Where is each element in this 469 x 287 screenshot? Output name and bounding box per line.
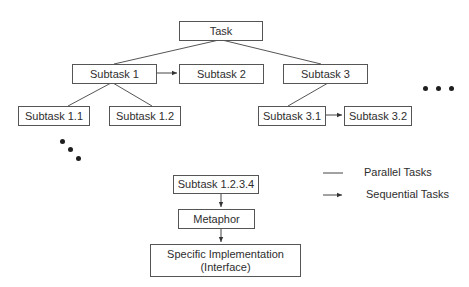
subtask-1-label: Subtask 1 xyxy=(90,68,139,81)
subtask-3-2-node: Subtask 3.2 xyxy=(344,106,412,126)
subtask-2-node: Subtask 2 xyxy=(179,64,264,84)
specific-implementation-node: Specific Implementation (Interface) xyxy=(150,244,301,277)
task-label: Task xyxy=(210,25,233,38)
task-node: Task xyxy=(179,21,263,41)
subtask-3-1-node: Subtask 3.1 xyxy=(258,106,326,126)
metaphor-label: Metaphor xyxy=(193,213,239,226)
subtask-1-1-node: Subtask 1.1 xyxy=(18,106,90,126)
subtask-3-node: Subtask 3 xyxy=(283,64,368,84)
interface-label: (Interface) xyxy=(200,261,250,274)
subtask-1-2-node: Subtask 1.2 xyxy=(109,106,181,126)
subtask-1-2-3-4-label: Subtask 1.2.3.4 xyxy=(178,178,254,191)
specific-implementation-label: Specific Implementation xyxy=(167,248,284,261)
legend-sequential-label: Sequential Tasks xyxy=(366,188,449,200)
metaphor-node: Metaphor xyxy=(178,209,255,229)
subtask-1-2-label: Subtask 1.2 xyxy=(116,110,174,123)
subtask-3-2-label: Subtask 3.2 xyxy=(349,110,407,123)
legend-parallel-label: Parallel Tasks xyxy=(364,166,432,178)
subtask-1-node: Subtask 1 xyxy=(72,64,157,84)
subtask-3-label: Subtask 3 xyxy=(301,68,350,81)
subtask-2-label: Subtask 2 xyxy=(197,68,246,81)
subtask-1-1-label: Subtask 1.1 xyxy=(25,110,83,123)
subtask-1-2-3-4-node: Subtask 1.2.3.4 xyxy=(173,175,259,194)
subtask-3-1-label: Subtask 3.1 xyxy=(263,110,321,123)
